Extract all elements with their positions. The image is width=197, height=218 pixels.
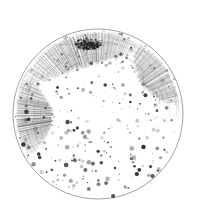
hatch-stroke (20, 91, 47, 99)
meteor-point (62, 180, 63, 181)
meteor-point (100, 136, 104, 140)
meteor-point (63, 174, 66, 177)
meteor-point (147, 66, 148, 67)
radiant-core-dot (100, 44, 102, 46)
meteor-point (97, 179, 99, 181)
meteor-point (145, 84, 148, 87)
meteor-point (87, 138, 89, 140)
radiant-core-dot (97, 41, 99, 43)
radiant-core-dot (85, 38, 87, 40)
meteor-point (119, 53, 122, 56)
meteor-point (68, 186, 70, 188)
meteor-point (168, 86, 169, 87)
meteor-point (111, 126, 113, 128)
meteor-point (28, 88, 31, 91)
meteor-point (166, 69, 169, 72)
meteor-point (77, 55, 80, 58)
meteor-point (88, 120, 90, 122)
meteor-point (103, 30, 106, 33)
meteor-point (114, 55, 117, 58)
meteor-point (87, 187, 91, 191)
meteor-point (73, 146, 75, 148)
meteor-point (121, 83, 125, 87)
meteor-point (76, 126, 79, 129)
meteor-point (175, 103, 176, 104)
meteor-point (51, 157, 52, 158)
meteor-point (155, 99, 157, 101)
hatch-band (16, 68, 54, 154)
meteor-point (27, 157, 28, 158)
meteor-point (85, 120, 88, 123)
meteor-point (95, 153, 96, 154)
radiant-core-dot (97, 47, 98, 48)
meteor-point (100, 154, 102, 156)
meteor-point (21, 142, 26, 147)
meteor-point (165, 151, 167, 153)
meteor-point (56, 184, 57, 185)
meteor-point (152, 127, 156, 131)
meteor-point (98, 76, 100, 78)
meteor-point (63, 38, 65, 40)
radiant-core-dot (78, 43, 80, 45)
meteor-point (123, 38, 125, 40)
meteor-point (119, 102, 121, 104)
meteor-point (56, 86, 59, 89)
meteor-point (68, 93, 70, 95)
meteor-point (76, 69, 78, 71)
radiant-core-dot (90, 49, 91, 50)
meteor-point (129, 94, 132, 97)
meteor-point (30, 69, 33, 72)
meteor-point (130, 47, 132, 49)
meteor-point (55, 90, 57, 92)
meteor-point (112, 84, 114, 86)
meteor-point (163, 119, 166, 122)
meteor-point (67, 111, 68, 112)
meteor-point (59, 136, 63, 140)
radiant-core-dot (78, 41, 79, 42)
meteor-point (41, 52, 42, 53)
meteor-point (106, 152, 107, 153)
meteor-point (57, 179, 59, 181)
meteor-point (93, 95, 94, 96)
meteor-point (83, 168, 87, 172)
meteor-point (87, 160, 91, 164)
meteor-point (87, 182, 89, 184)
meteor-point (135, 172, 139, 176)
meteor-point (77, 144, 78, 145)
meteor-point (52, 125, 53, 126)
radiant-core-dot (88, 41, 89, 42)
meteor-point (161, 79, 165, 83)
meteor-point (152, 153, 153, 154)
meteor-point (85, 53, 86, 54)
meteor-point (91, 162, 95, 166)
meteor-point (27, 145, 31, 149)
meteor-point (156, 91, 157, 92)
meteor-point (103, 132, 105, 134)
meteor-point (105, 176, 110, 181)
meteor-point (66, 62, 68, 64)
meteor-point (173, 78, 175, 80)
engraving-plate: Circular sky chart Meteor radiant plate (0, 0, 197, 218)
meteor-point (145, 113, 146, 114)
meteor-point (127, 128, 128, 129)
radiant-core-dot (76, 43, 78, 45)
meteor-point (36, 82, 39, 85)
meteor-point (118, 173, 120, 175)
meteor-point (67, 122, 68, 123)
meteor-point (139, 103, 141, 105)
meteor-point (164, 149, 166, 151)
meteor-point (54, 160, 56, 162)
meteor-point (170, 119, 173, 122)
meteor-point (31, 93, 34, 96)
meteor-point (62, 73, 63, 74)
meteor-point (45, 148, 47, 150)
meteor-point (37, 101, 39, 103)
meteor-point (43, 141, 46, 144)
meteor-point (27, 155, 29, 157)
meteor-point (104, 92, 105, 93)
meteor-point (33, 127, 38, 132)
radiant-core-dot (97, 46, 98, 47)
meteor-point (153, 67, 155, 69)
meteor-point (137, 108, 138, 109)
radiant-core-dot (100, 42, 101, 43)
